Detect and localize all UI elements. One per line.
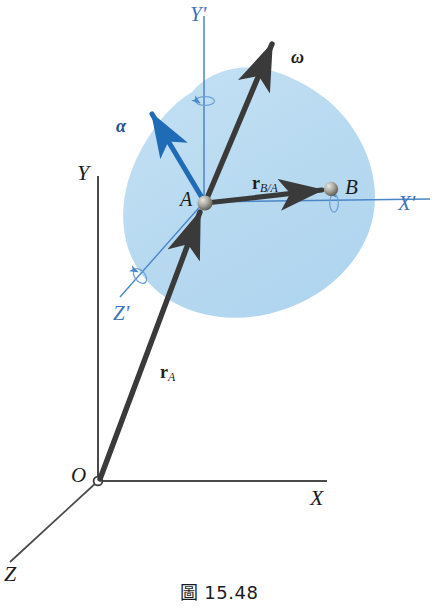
axis-z <box>10 481 98 562</box>
label-y-axis: Y <box>77 162 89 184</box>
label-omega: ω <box>291 48 304 66</box>
label-point-a: A <box>180 189 192 209</box>
point-b-marker <box>324 182 338 196</box>
label-alpha: α <box>116 117 126 135</box>
label-z-prime: Z' <box>113 303 129 324</box>
label-vector-r-ba: rB/A <box>252 174 278 194</box>
figure-container: Y' X' Z' Y X Z O A B ω α rA rB/A 圖 15.48 <box>0 0 438 614</box>
label-point-b: B <box>345 177 358 198</box>
label-y-prime: Y' <box>190 4 206 25</box>
figure-caption: 圖 15.48 <box>0 578 438 604</box>
label-r-ba-sub: B/A <box>260 181 278 195</box>
point-a-marker <box>197 195 212 210</box>
label-r-a-sub: A <box>168 370 175 384</box>
label-origin: O <box>71 465 86 486</box>
diagram-canvas <box>0 0 438 614</box>
label-vector-r-a: rA <box>160 363 175 383</box>
label-x-axis: X <box>310 487 323 509</box>
label-r-ba-base: r <box>252 173 260 193</box>
label-x-prime: X' <box>398 193 415 214</box>
label-r-a-base: r <box>160 362 168 382</box>
